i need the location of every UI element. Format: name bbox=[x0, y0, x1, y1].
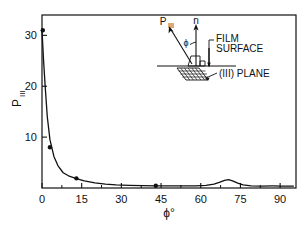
x-tick-label: 75 bbox=[234, 193, 246, 205]
x-tick-label: 15 bbox=[76, 193, 88, 205]
p111-vector-label-subscript: III bbox=[168, 22, 174, 29]
data-point bbox=[41, 28, 45, 32]
film-surface-label-line2: SURFACE bbox=[216, 43, 264, 54]
p111-vector-label: P bbox=[160, 16, 167, 27]
x-tick-label: 90 bbox=[274, 193, 286, 205]
x-tick-label: 30 bbox=[115, 193, 127, 205]
y-tick-label: 10 bbox=[25, 131, 37, 143]
x-tick-label: 60 bbox=[195, 193, 207, 205]
data-point bbox=[48, 145, 52, 149]
chart-figure: 0153045607590 102030 ϕ° P III ϕ P III n bbox=[0, 0, 308, 234]
phi-angle-label: ϕ bbox=[183, 38, 188, 48]
normal-vector-label: n bbox=[193, 15, 199, 26]
data-point bbox=[74, 176, 78, 180]
data-point bbox=[154, 184, 158, 188]
x-tick-label: 45 bbox=[155, 193, 167, 205]
plane-label: (III) PLANE bbox=[219, 68, 270, 79]
y-axis-label-main: P bbox=[10, 99, 24, 107]
y-tick-label: 30 bbox=[25, 29, 37, 41]
x-axis-label: ϕ° bbox=[163, 206, 175, 220]
x-tick-label: 0 bbox=[39, 193, 45, 205]
y-axis-label-subscript: III bbox=[18, 90, 27, 97]
